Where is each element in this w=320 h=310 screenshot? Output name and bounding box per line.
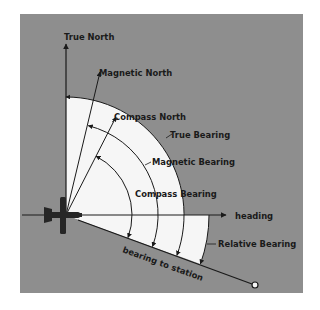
true-north-label: True North (64, 32, 114, 42)
magnetic-north-label: Magnetic North (99, 68, 172, 78)
bearing-diagram: True North Magnetic North Compass North … (0, 0, 320, 310)
magnetic-bearing-label: Magnetic Bearing (152, 157, 235, 167)
relative-bearing-label: Relative Bearing (218, 239, 296, 249)
true-bearing-label: True Bearing (170, 130, 230, 140)
heading-label: heading (235, 211, 273, 221)
compass-north-label: Compass North (114, 112, 186, 122)
compass-bearing-label: Compass Bearing (135, 189, 217, 199)
station-icon (252, 282, 258, 288)
